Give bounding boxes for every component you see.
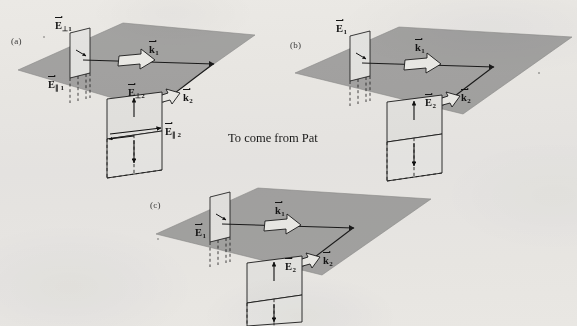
k-subscript: 1 xyxy=(281,210,285,218)
E-subscript: 2 xyxy=(292,266,296,274)
panel-letter-b: (b) xyxy=(290,40,301,50)
E-symbol: E xyxy=(336,24,343,35)
label-k-1-c: k1 xyxy=(275,206,285,218)
optics-diagram-svg xyxy=(0,0,577,326)
E-symbol: E xyxy=(128,88,135,99)
figure-canvas: (a) (b) (c) E⊥1 E∥ 1 k1 E⊥2 E∥ 2 k2 E1 k… xyxy=(0,0,577,326)
E-symbol: E xyxy=(425,98,432,109)
k-symbol: k xyxy=(323,256,329,267)
k-subscript: 1 xyxy=(421,47,425,55)
E-subscript: ⊥2 xyxy=(135,92,145,100)
E-symbol: E xyxy=(285,262,292,273)
E-subscript: ⊥1 xyxy=(62,25,72,33)
label-k-1-b: k1 xyxy=(415,43,425,55)
k-symbol: k xyxy=(415,43,421,54)
panel-c-group xyxy=(156,188,431,326)
k-subscript: 2 xyxy=(189,97,193,105)
label-k-2-b: k2 xyxy=(461,93,471,105)
label-E-2-c: E2 xyxy=(285,262,296,274)
k-symbol: k xyxy=(461,93,467,104)
label-E-perp-2-a: E⊥2 xyxy=(128,88,145,100)
E-subscript: 2 xyxy=(432,102,436,110)
E-subscript: ∥ 2 xyxy=(172,131,181,139)
incident-field-sheet-b xyxy=(350,31,370,81)
E-symbol: E xyxy=(195,228,202,239)
incident-field-sheet-a xyxy=(70,28,90,78)
label-E-perp-1-a: E⊥1 xyxy=(55,21,72,33)
k-subscript: 2 xyxy=(467,97,471,105)
k-subscript: 1 xyxy=(155,49,159,57)
E-subscript: 1 xyxy=(343,28,347,36)
E-symbol: E xyxy=(165,127,172,138)
k-subscript: 2 xyxy=(329,260,333,268)
label-k-1-a: k1 xyxy=(149,45,159,57)
label-k-2-c: k2 xyxy=(323,256,333,268)
E-symbol: E xyxy=(48,80,55,91)
label-E-2-b: E2 xyxy=(425,98,436,110)
E-symbol: E xyxy=(55,21,62,32)
label-k-2-a: k2 xyxy=(183,93,193,105)
panel-a-group xyxy=(18,23,255,178)
E-subscript: ∥ 1 xyxy=(55,84,64,92)
incident-field-sheet-c xyxy=(210,192,230,242)
k-symbol: k xyxy=(275,206,281,217)
E-subscript: 1 xyxy=(202,232,206,240)
placeholder-note: To come from Pat xyxy=(228,131,318,146)
k-symbol: k xyxy=(149,45,155,56)
label-E-1-c: E1 xyxy=(195,228,206,240)
k-symbol: k xyxy=(183,93,189,104)
label-E-1-b: E1 xyxy=(336,24,347,36)
label-E-par-1-a: E∥ 1 xyxy=(48,80,64,92)
panel-letter-a: (a) xyxy=(11,36,22,46)
panel-letter-c: (c) xyxy=(150,200,161,210)
label-E-par-2-a: E∥ 2 xyxy=(165,127,181,139)
